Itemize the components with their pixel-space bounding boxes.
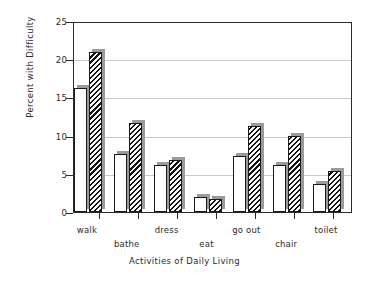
bar-group-bathe	[114, 23, 142, 212]
x-tick-label-chair: chair	[256, 239, 316, 249]
bar-group-chair	[273, 23, 301, 212]
bar-eat-open	[194, 197, 207, 212]
bar-face	[328, 171, 341, 212]
x-tick-label-walk: walk	[57, 225, 117, 235]
bar-go-out-open	[233, 156, 246, 212]
bar-face	[114, 154, 127, 212]
bar-dress-hatched	[169, 160, 182, 212]
y-tick-label: 20	[27, 55, 67, 65]
bar-chair-open	[273, 165, 286, 212]
bar-face	[89, 52, 102, 212]
bar-shadow-edge	[142, 120, 145, 209]
x-tick-label-dress: dress	[137, 225, 197, 235]
y-tick-mark	[66, 213, 73, 214]
bar-shadow-edge	[182, 157, 185, 209]
x-tick-mark	[333, 213, 334, 219]
x-tick-label-eat: eat	[177, 239, 237, 249]
bar-face	[248, 126, 261, 212]
y-tick-label: 0	[27, 208, 67, 218]
bar-face	[74, 88, 87, 212]
y-tick-mark	[66, 137, 73, 138]
bar-chart-figure: Percent with Difficulty 25 20 15 10 5 0 …	[0, 0, 369, 285]
x-tick-mark	[177, 213, 178, 219]
bar-toilet-open	[313, 184, 326, 212]
bar-face	[154, 165, 167, 212]
bar-group-eat	[194, 23, 222, 212]
bar-shadow-edge	[301, 133, 304, 209]
bar-face	[194, 197, 207, 212]
bar-face	[313, 184, 326, 212]
y-tick-label: 5	[27, 170, 67, 180]
bar-face	[233, 156, 246, 212]
bar-walk-hatched	[89, 52, 102, 212]
bar-face	[273, 165, 286, 212]
bar-go-out-hatched	[248, 126, 261, 212]
y-tick-mark	[66, 175, 73, 176]
bar-face	[209, 199, 222, 212]
x-tick-label-toilet: toilet	[296, 225, 356, 235]
bar-group-dress	[154, 23, 182, 212]
bar-bathe-open	[114, 154, 127, 212]
x-tick-mark	[99, 213, 100, 219]
bar-face	[288, 136, 301, 212]
x-tick-label-bathe: bathe	[97, 239, 157, 249]
plot-area	[73, 22, 352, 213]
bar-dress-open	[154, 165, 167, 212]
x-tick-label-go-out: go out	[216, 225, 276, 235]
bar-walk-open	[74, 88, 87, 212]
bar-chair-hatched	[288, 136, 301, 212]
bar-eat-hatched	[209, 199, 222, 212]
y-tick-mark	[66, 22, 73, 23]
x-tick-mark	[138, 213, 139, 219]
y-tick-label: 15	[27, 93, 67, 103]
bar-shadow-edge	[261, 123, 264, 209]
bar-face	[129, 123, 142, 212]
bar-face	[169, 160, 182, 212]
y-tick-mark	[66, 60, 73, 61]
x-tick-mark	[216, 213, 217, 219]
x-tick-mark	[294, 213, 295, 219]
bar-group-toilet	[313, 23, 341, 212]
bar-shadow-edge	[102, 49, 105, 209]
y-tick-mark	[66, 98, 73, 99]
bar-bathe-hatched	[129, 123, 142, 212]
bar-group-go-out	[233, 23, 261, 212]
x-tick-mark	[255, 213, 256, 219]
x-axis-title: Activities of Daily Living	[0, 256, 369, 266]
bar-group-walk	[74, 23, 102, 212]
y-tick-label: 25	[27, 17, 67, 27]
bar-shadow-edge	[341, 168, 344, 209]
bar-toilet-hatched	[328, 171, 341, 212]
y-tick-label: 10	[27, 132, 67, 142]
